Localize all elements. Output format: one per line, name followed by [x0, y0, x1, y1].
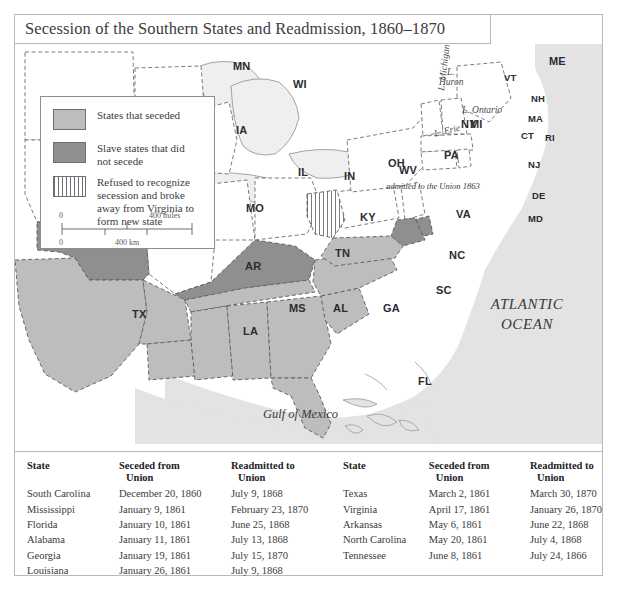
cell-state: North Carolina: [343, 533, 429, 548]
map-label-wi: WI: [293, 78, 307, 90]
map-label-il: IL: [298, 166, 308, 178]
figure-title-bar: Secession of the Southern States and Rea…: [14, 14, 491, 44]
cell-seceded: January 10, 1861: [119, 518, 231, 533]
cell-seceded: June 8, 1861: [429, 548, 530, 563]
table-row: Alabama January 11, 1861 July 13, 1868: [27, 533, 308, 548]
map-label-nj: NJ: [528, 159, 541, 170]
cell-seceded: January 9, 1861: [119, 502, 231, 517]
legend-swatch-hatch: [53, 176, 86, 197]
table-row: Arkansas May 6, 1861 June 22, 1868: [343, 518, 602, 533]
secession-table-left: State Seceded from Union Readmitted to U…: [27, 460, 308, 579]
map-label-nc: NC: [449, 249, 465, 261]
scale-bar-graphic: [61, 221, 195, 237]
lake-label-ontario: L. Ontario: [462, 105, 502, 115]
cell-readmitted: January 26, 1870: [530, 502, 602, 517]
cell-state: South Carolina: [27, 487, 119, 502]
col-header-readmitted: Readmitted to Union: [231, 460, 308, 487]
col-header-seceded-l2: Union: [119, 472, 153, 484]
map-label-al: AL: [333, 302, 348, 314]
map-label-ia: IA: [236, 124, 247, 136]
cell-seceded: January 11, 1861: [119, 533, 231, 548]
col-header-seceded: Seceded from Union: [119, 460, 231, 487]
col-header-readmitted-l2: Union: [231, 472, 265, 484]
cell-readmitted: July 24, 1866: [530, 548, 602, 563]
map-label-md: MD: [528, 213, 543, 224]
col-header-readmitted-l2: Union: [530, 472, 564, 484]
cell-seceded: December 20, 1860: [119, 487, 231, 502]
table-header-row: State Seceded from Union Readmitted to U…: [343, 460, 602, 487]
cell-seceded: March 2, 1861: [429, 487, 530, 502]
map-label-tn: TN: [335, 247, 350, 259]
col-header-seceded-l1: Seceded from: [429, 460, 490, 471]
map-label-me: ME: [549, 55, 566, 67]
map-label-de: DE: [532, 190, 546, 201]
wv-admitted-note: admitted to the Union 1863: [373, 182, 493, 192]
col-header-state: State: [343, 460, 429, 487]
cell-seceded: May 6, 1861: [429, 518, 530, 533]
legend-item-seceded: States that seceded: [53, 109, 205, 130]
state-al: [227, 302, 271, 380]
legend-label-seceded: States that seceded: [97, 109, 180, 122]
table-row: Texas March 2, 1861 March 30, 1870: [343, 487, 602, 502]
state-ms: [191, 306, 233, 380]
map-label-ct: CT: [521, 130, 534, 141]
table-row: Louisiana January 26, 1861 July 9, 1868: [27, 564, 308, 579]
map-figure-page: MN WI IA IL IN MI OH PA NY ME VT NH MA C…: [0, 0, 617, 591]
scale-km-mid: 400 km: [115, 238, 139, 247]
table-row: Georgia January 19, 1861 July 15, 1870: [27, 548, 308, 563]
table-row: Mississippi January 9, 1861 February 23,…: [27, 502, 308, 517]
cell-seceded: January 26, 1861: [119, 564, 231, 579]
cell-seceded: January 19, 1861: [119, 548, 231, 563]
atlantic-ocean-label-line2: OCEAN: [472, 316, 582, 333]
map-label-ar: AR: [245, 260, 261, 272]
map-label-ms: MS: [289, 302, 306, 314]
cell-state: Virginia: [343, 502, 429, 517]
cell-readmitted: July 4, 1868: [530, 533, 602, 548]
legend-label-slave-not-seceded: Slave states that did not secede: [97, 142, 193, 168]
gulf-of-mexico-label: Gulf of Mexico: [263, 407, 338, 422]
cell-readmitted: March 30, 1870: [530, 487, 602, 502]
scale-miles-max: 400 miles: [149, 211, 180, 220]
cell-readmitted: July 9, 1868: [231, 564, 308, 579]
atlantic-ocean-label-line1: ATLANTIC: [472, 296, 582, 313]
secession-tables-panel: State Seceded from Union Readmitted to U…: [15, 451, 602, 575]
cell-seceded: April 17, 1861: [429, 502, 530, 517]
cell-readmitted: July 15, 1870: [231, 548, 308, 563]
map-label-pa: PA: [444, 149, 459, 161]
legend-swatch-slave-not-seceded: [53, 142, 86, 163]
col-header-readmitted-l1: Readmitted to: [530, 460, 594, 471]
table-row: Tennessee June 8, 1861 July 24, 1866: [343, 548, 602, 563]
legend-swatch-seceded: [53, 109, 86, 130]
cell-state: Alabama: [27, 533, 119, 548]
cell-readmitted: July 9, 1868: [231, 487, 308, 502]
map-label-fl: FL: [418, 375, 432, 387]
map-label-sc: SC: [436, 284, 452, 296]
scale-miles-zero: 0: [59, 211, 63, 220]
col-header-state: State: [27, 460, 119, 487]
map-label-va: VA: [456, 208, 471, 220]
map-label-ga: GA: [383, 302, 400, 314]
col-header-readmitted-l1: Readmitted to: [231, 460, 295, 471]
map-label-ky: KY: [360, 211, 376, 223]
state-la: [147, 340, 195, 380]
col-header-state-l1: State: [27, 460, 50, 471]
cell-state: Arkansas: [343, 518, 429, 533]
map-label-ma: MA: [528, 113, 543, 124]
col-header-state-l1: State: [343, 460, 366, 471]
table-row: South Carolina December 20, 1860 July 9,…: [27, 487, 308, 502]
table-row: North Carolina May 20, 1861 July 4, 1868: [343, 533, 602, 548]
col-header-seceded: Seceded from Union: [429, 460, 530, 487]
map-label-in: IN: [344, 170, 355, 182]
col-header-seceded-l1: Seceded from: [119, 460, 180, 471]
legend-item-slave-not-seceded: Slave states that did not secede: [53, 142, 205, 168]
cell-readmitted: June 22, 1868: [530, 518, 602, 533]
table-header-row: State Seceded from Union Readmitted to U…: [27, 460, 308, 487]
cell-state: Tennessee: [343, 548, 429, 563]
cell-state: Georgia: [27, 548, 119, 563]
map-label-ri: RI: [545, 132, 555, 143]
cell-readmitted: February 23, 1870: [231, 502, 308, 517]
secession-table-right: State Seceded from Union Readmitted to U…: [343, 460, 602, 564]
map-label-wv: WV: [399, 164, 417, 176]
scale-km-zero: 0: [59, 238, 63, 247]
col-header-readmitted: Readmitted to Union: [530, 460, 602, 487]
